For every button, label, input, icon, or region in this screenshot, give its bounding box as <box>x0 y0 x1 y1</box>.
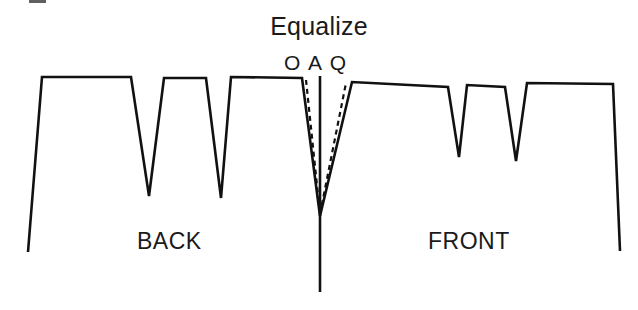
equalize-waveform-figure: Equalize O A Q BACK FRONT <box>0 0 638 310</box>
page-title: Equalize <box>0 12 638 41</box>
back-region-label: BACK <box>137 228 202 255</box>
front-region-label: FRONT <box>428 228 510 255</box>
marker-a: A <box>308 52 322 73</box>
dashed-right-branch-path <box>320 83 346 214</box>
waveform-plot <box>0 0 638 310</box>
waveform-profile-path <box>28 77 620 252</box>
marker-q: Q <box>330 52 346 73</box>
marker-row: O A Q <box>284 52 346 73</box>
marker-o: O <box>284 52 300 73</box>
